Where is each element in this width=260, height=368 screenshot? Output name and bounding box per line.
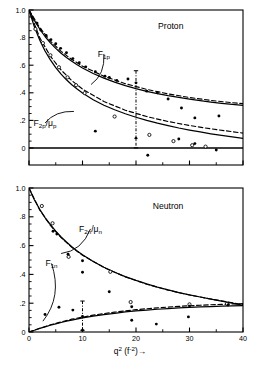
- panel-title-upper: Proton: [158, 21, 184, 31]
- x-axis-title-text: q2 (f-2)→: [114, 345, 146, 356]
- x-tick-label: 40: [239, 334, 247, 343]
- data-point-filled: [193, 116, 196, 119]
- data-point-open: [41, 42, 44, 45]
- data-point-filled: [127, 78, 130, 81]
- data-point-filled: [108, 76, 111, 79]
- y-tick-label: 1.0: [16, 6, 26, 15]
- data-point-filled: [94, 70, 97, 73]
- data-point-filled: [108, 290, 111, 293]
- y-tick-label: .6: [20, 61, 26, 70]
- data-point-filled: [67, 253, 70, 256]
- panel-title-lower: Neutron: [153, 201, 184, 211]
- figure-root: 0.2.4.6.81.0ProtonF1pF2p/μp0.2.4.6.81.00…: [0, 0, 260, 368]
- x-tick-label: 30: [186, 334, 194, 343]
- data-point-filled: [49, 38, 52, 41]
- data-point-open: [34, 27, 37, 30]
- data-point-filled: [54, 42, 57, 45]
- y-tick-label: 0: [22, 144, 26, 153]
- data-point-filled: [115, 79, 118, 82]
- y-tick-label: .2: [20, 116, 26, 125]
- data-point-filled: [65, 51, 68, 54]
- curve-f1p-dashed-model-curve: [29, 10, 243, 104]
- data-point-filled: [55, 233, 58, 236]
- data-point-filled: [78, 61, 81, 64]
- data-point-filled: [94, 130, 97, 133]
- data-point-open: [49, 54, 52, 57]
- data-point-filled: [81, 271, 84, 274]
- data-point-filled: [177, 138, 180, 141]
- data-point-filled: [58, 306, 61, 309]
- data-point-filled: [36, 22, 39, 25]
- data-point-open: [109, 270, 112, 273]
- y-tick-label: .8: [20, 33, 26, 42]
- data-point-open: [129, 300, 132, 303]
- data-point-open: [66, 76, 69, 79]
- data-point-filled: [130, 319, 133, 322]
- data-point-open: [191, 144, 194, 147]
- data-point-open: [67, 255, 70, 258]
- data-point-filled: [81, 259, 84, 262]
- data-point-filled: [59, 47, 62, 50]
- y-tick-label: .2: [20, 299, 26, 308]
- y-tick-label: .6: [20, 241, 26, 250]
- data-point-filled: [44, 313, 47, 316]
- y-tick-label: 1.0: [16, 184, 26, 193]
- data-point-filled: [155, 323, 158, 326]
- data-point-filled: [187, 315, 190, 318]
- data-point-open: [204, 145, 207, 148]
- data-point-filled: [156, 91, 159, 94]
- data-point-filled: [31, 16, 34, 19]
- data-point-filled: [193, 142, 196, 145]
- data-point-open: [57, 66, 60, 69]
- form-factor-figure: 0.2.4.6.81.0ProtonF1pF2p/μp0.2.4.6.81.00…: [0, 0, 260, 368]
- data-point-filled: [71, 57, 74, 60]
- y-tick-label: .8: [20, 212, 26, 221]
- y-tick-label: .4: [20, 270, 26, 279]
- data-point-filled: [180, 107, 183, 110]
- curve-f2n-mu-n-dashed-model-curve: [29, 188, 243, 305]
- curve-label-f1n: F1n: [45, 258, 58, 269]
- x-tick-label: 10: [79, 334, 87, 343]
- data-point-filled: [227, 303, 230, 306]
- data-layer-upper: [29, 10, 243, 157]
- data-point-filled: [45, 34, 48, 37]
- data-point-open: [148, 133, 151, 136]
- data-point-filled: [84, 65, 87, 68]
- data-point-open: [172, 140, 175, 143]
- data-point-filled: [217, 115, 220, 118]
- data-point-open: [51, 222, 54, 225]
- data-point-filled: [130, 305, 133, 308]
- data-point-open: [40, 204, 43, 207]
- data-point-open: [74, 84, 77, 87]
- panel-lower: 0.2.4.6.81.0010203040NeutronF2n/μnF1n: [16, 184, 248, 343]
- annotation-leader: [43, 263, 56, 321]
- data-point-open: [83, 91, 86, 94]
- data-point-filled: [167, 98, 170, 101]
- curve-label-f2p-p: F2p/μp: [34, 118, 57, 129]
- y-tick-label: 0: [22, 328, 26, 337]
- y-tick-label: .4: [20, 88, 26, 97]
- curve-f1p-solid-model-curve: [29, 10, 243, 105]
- data-point-filled: [71, 309, 74, 312]
- x-axis-title: q2 (f-2)→: [114, 345, 146, 356]
- curve-f2n-mu-n-solid-model-curve: [29, 188, 243, 305]
- curve-label-f1p: F1p: [98, 49, 111, 60]
- data-point-filled: [215, 149, 218, 152]
- data-point-filled: [39, 29, 42, 32]
- data-point-filled: [146, 154, 149, 157]
- x-tick-label: 20: [132, 334, 140, 343]
- data-point-filled: [52, 230, 55, 233]
- panel-upper: 0.2.4.6.81.0ProtonF1pF2p/μp: [16, 6, 244, 165]
- data-layer-lower: [29, 188, 243, 332]
- data-point-open: [113, 115, 116, 118]
- data-point-filled: [145, 90, 148, 93]
- x-tick-label: 0: [27, 334, 31, 343]
- curve-label-f2n-n: F2n/μn: [79, 224, 102, 235]
- data-point-filled: [104, 75, 107, 78]
- data-point-filled: [188, 305, 191, 308]
